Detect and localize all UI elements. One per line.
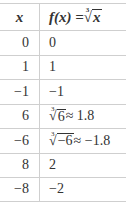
cell-fx: 3√6 ≈ 1.8 — [40, 105, 126, 129]
cell-x: 0 — [0, 31, 40, 55]
cell-x: −6 — [0, 129, 40, 153]
table-row: 8 2 — [0, 153, 126, 178]
header-x: x — [0, 4, 40, 30]
cell-fx: 3√−6 ≈ −1.8 — [40, 129, 126, 153]
cube-root-symbol: 3√ — [49, 108, 57, 124]
table-row: 0 0 — [0, 30, 126, 55]
table-row: −6 3√−6 ≈ −1.8 — [0, 128, 126, 153]
table-header-row: x f(x) = 3√x — [0, 3, 126, 30]
cell-x: 1 — [0, 56, 40, 80]
table-row: 1 1 — [0, 55, 126, 80]
cell-fx: 2 — [40, 154, 126, 178]
cell-fx: −2 — [40, 178, 126, 201]
table-row: −1 −1 — [0, 79, 126, 104]
cell-x: −8 — [0, 178, 40, 201]
header-radicand: x — [92, 9, 102, 25]
cell-x: 8 — [0, 154, 40, 178]
header-fx: f(x) = 3√x — [40, 4, 126, 30]
cell-fx: 0 — [40, 31, 126, 55]
header-fx-label: f(x) = — [49, 9, 84, 26]
cell-fx: −1 — [40, 80, 126, 104]
cube-root-table: x f(x) = 3√x 0 0 1 1 −1 −1 6 3√6 ≈ 1.8 −… — [0, 3, 126, 202]
cell-x: −1 — [0, 80, 40, 104]
cell-x: 6 — [0, 105, 40, 129]
cube-root-symbol: 3√ — [49, 133, 57, 149]
cell-fx: 1 — [40, 56, 126, 80]
table-row: −8 −2 — [0, 177, 126, 202]
table-row: 6 3√6 ≈ 1.8 — [0, 104, 126, 129]
cube-root-symbol: 3√ — [84, 9, 92, 26]
